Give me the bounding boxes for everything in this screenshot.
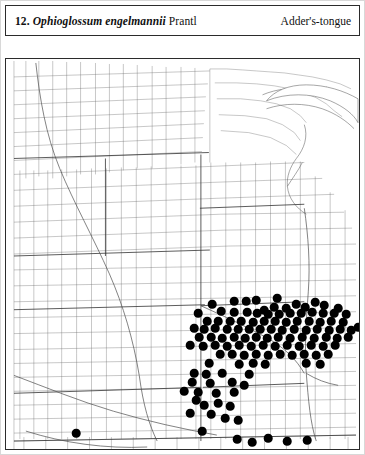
county-boundary-map bbox=[6, 59, 359, 449]
figure-caption-box: 12. Ophioglossum engelmannii Prantl Adde… bbox=[5, 5, 360, 36]
distribution-map bbox=[5, 58, 360, 450]
common-name-label: Adder's-tongue bbox=[281, 15, 351, 27]
page-title: 12. Ophioglossum engelmannii Prantl bbox=[15, 15, 197, 27]
figure-number: 12. bbox=[15, 15, 30, 27]
authority-name: Prantl bbox=[169, 15, 197, 27]
figure-page: 12. Ophioglossum engelmannii Prantl Adde… bbox=[0, 0, 365, 455]
scientific-name: Ophioglossum engelmannii bbox=[33, 15, 166, 27]
